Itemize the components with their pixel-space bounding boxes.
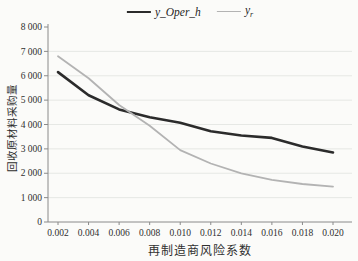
y-tick-label: 0 bbox=[37, 217, 42, 227]
chart-legend: y_Oper_h yr bbox=[127, 4, 253, 19]
x-tick-label: 0.012 bbox=[200, 228, 222, 238]
chart-figure: 01 0002 0003 0004 0005 0006 0007 0008 00… bbox=[0, 0, 358, 261]
x-tick-label: 0.002 bbox=[47, 228, 69, 238]
x-tick-label: 0.006 bbox=[108, 228, 130, 238]
x-tick-label: 0.010 bbox=[170, 228, 192, 238]
legend-line-sample-gray bbox=[217, 11, 241, 12]
x-tick-label: 0.020 bbox=[322, 228, 344, 238]
x-tick-label: 0.016 bbox=[261, 228, 283, 238]
y-axis-title: 回收原材料采购量 bbox=[4, 84, 19, 172]
y-tick-label: 7 000 bbox=[21, 47, 43, 57]
legend-line-sample-black bbox=[127, 11, 151, 13]
chart-plot-area: 01 0002 0003 0004 0005 0006 0007 0008 00… bbox=[0, 0, 358, 261]
y-tick-label: 4 000 bbox=[21, 120, 43, 130]
y-tick-label: 3 000 bbox=[21, 144, 43, 154]
legend-item-y-oper-h: y_Oper_h bbox=[127, 6, 201, 18]
x-tick-label: 0.018 bbox=[292, 228, 314, 238]
x-axis-title: 再制造商风险系数 bbox=[148, 241, 252, 259]
x-tick-label: 0.014 bbox=[231, 228, 253, 238]
y-tick-label: 2 000 bbox=[21, 168, 43, 178]
x-tick-label: 0.004 bbox=[78, 228, 100, 238]
legend-label-y-oper-h: y_Oper_h bbox=[155, 6, 201, 18]
y-tick-label: 5 000 bbox=[21, 95, 43, 105]
y-tick-label: 8 000 bbox=[21, 22, 43, 32]
legend-item-y-r: yr bbox=[217, 4, 253, 19]
series-line-y_Oper_h bbox=[58, 72, 333, 152]
y-tick-label: 1 000 bbox=[21, 193, 43, 203]
legend-label-y-r: yr bbox=[245, 4, 253, 19]
y-tick-label: 6 000 bbox=[21, 71, 43, 81]
x-tick-label: 0.008 bbox=[139, 228, 161, 238]
